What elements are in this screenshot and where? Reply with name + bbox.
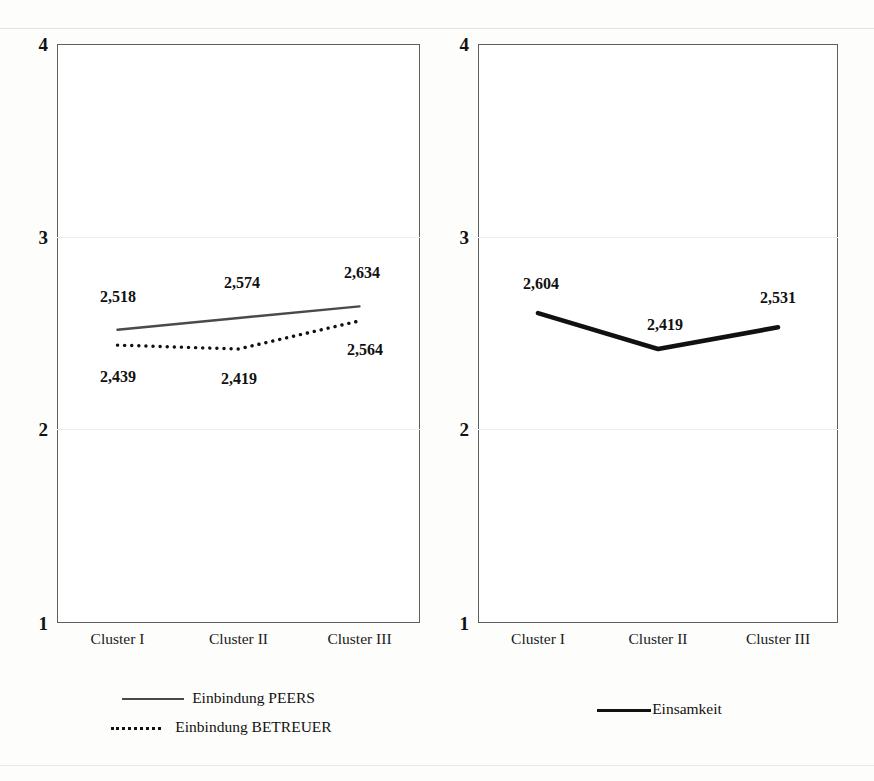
legend-swatch-solid-line-icon [122, 692, 184, 704]
legend-swatch-thick-line-icon [589, 703, 651, 715]
y-tick-left-3: 3 [39, 227, 49, 246]
data-label-betreuer-2: 2,419 [221, 371, 257, 387]
x-tick-right-cluster-3: Cluster III [746, 631, 810, 647]
data-label-einsamkeit-1: 2,604 [523, 276, 559, 292]
legend-item-einsamkeit: Einsamkeit [437, 694, 874, 723]
y-tick-right-1: 1 [460, 614, 470, 633]
series-line-einbindung-peers [118, 306, 360, 329]
data-label-einsamkeit-2: 2,419 [647, 317, 683, 333]
data-label-peers-3: 2,634 [344, 265, 380, 281]
data-label-peers-1: 2,518 [100, 289, 136, 305]
y-tick-right-3: 3 [460, 227, 470, 246]
data-label-betreuer-3: 2,564 [347, 342, 383, 358]
y-tick-right-2: 2 [460, 420, 470, 439]
x-tick-left-cluster-1: Cluster I [91, 631, 145, 647]
legend-left: Einbindung PEERS Einbindung BETREUER [0, 683, 437, 741]
x-tick-left-cluster-3: Cluster III [327, 631, 391, 647]
legend-item-einbindung-peers: Einbindung PEERS [0, 683, 437, 712]
x-tick-left-cluster-2: Cluster II [209, 631, 268, 647]
series-lines-right [478, 44, 838, 623]
x-tick-right-cluster-2: Cluster II [629, 631, 688, 647]
data-label-einsamkeit-3: 2,531 [760, 290, 796, 306]
y-tick-left-2: 2 [39, 420, 49, 439]
y-tick-left-1: 1 [39, 614, 49, 633]
data-label-betreuer-1: 2,439 [100, 369, 136, 385]
data-label-peers-2: 2,574 [224, 275, 260, 291]
legend-swatch-dotted-line-icon [105, 721, 167, 733]
x-tick-right-cluster-1: Cluster I [511, 631, 565, 647]
legend-label-einbindung-peers: Einbindung PEERS [192, 690, 315, 706]
plot-area-left: 4 3 2 1 Cluster I Cluster II Cluster III… [57, 44, 420, 623]
legend-label-einsamkeit: Einsamkeit [652, 701, 722, 717]
plot-area-right: 4 3 2 1 Cluster I Cluster II Cluster III… [478, 44, 838, 623]
chart-right-einsamkeit: 4 3 2 1 Cluster I Cluster II Cluster III… [437, 0, 874, 781]
legend-right: Einsamkeit [437, 694, 874, 723]
y-tick-left-4: 4 [39, 35, 49, 54]
series-lines-left [57, 44, 420, 623]
legend-item-einbindung-betreuer: Einbindung BETREUER [0, 712, 437, 741]
legend-label-einbindung-betreuer: Einbindung BETREUER [175, 719, 331, 735]
y-tick-right-4: 4 [460, 35, 470, 54]
chart-left-einbindung: 4 3 2 1 Cluster I Cluster II Cluster III… [0, 0, 437, 781]
